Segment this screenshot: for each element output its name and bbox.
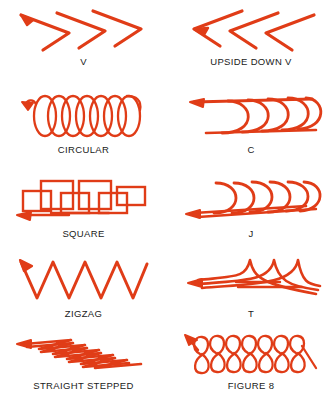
arrowhead-icon: [194, 28, 208, 35]
pattern-cell-circular: CIRCULAR: [0, 84, 167, 168]
pattern-label: C: [247, 145, 254, 155]
arrowhead-icon: [22, 102, 33, 110]
pattern-cell-straight-stepped: STRAIGHT STEPPED: [0, 326, 167, 406]
pattern-label: SQUARE: [62, 229, 104, 239]
pattern-cell-j: J: [167, 168, 335, 248]
arrowhead-icon: [20, 260, 32, 271]
pattern-cell-upside-down-v: UPSIDE DOWN V: [167, 0, 335, 84]
pattern-grid: V UPSIDE DOWN V: [0, 0, 335, 406]
pattern-label: ZIGZAG: [65, 309, 102, 319]
pattern-label: J: [248, 229, 253, 239]
pattern-label: STRAIGHT STEPPED: [33, 381, 133, 391]
arrowhead-icon: [188, 279, 202, 287]
arrowhead-icon: [190, 99, 204, 107]
pattern-cell-c: C: [167, 84, 335, 168]
arrowhead-icon: [21, 15, 33, 25]
arrowhead-icon: [17, 340, 31, 348]
sawtooth-icon: [9, 252, 159, 308]
figure-eight-coil-icon: [176, 330, 326, 380]
arc-repeat-icon: [176, 88, 326, 144]
pattern-label: CIRCULAR: [58, 145, 109, 155]
arrowhead-icon: [17, 212, 31, 220]
pattern-cell-t: T: [167, 248, 335, 326]
pattern-label: T: [248, 309, 254, 319]
arrowhead-icon: [186, 210, 200, 218]
pattern-cell-zigzag: ZIGZAG: [0, 248, 167, 326]
loop-coil-icon: [9, 88, 159, 144]
stroke-pattern-chart: V UPSIDE DOWN V: [0, 0, 335, 406]
chevron-left-repeat-icon: [176, 4, 326, 56]
pattern-cell-square: SQUARE: [0, 168, 167, 248]
hook-repeat-icon: [176, 172, 326, 228]
stepped-stroke-icon: [9, 330, 159, 380]
pattern-label: UPSIDE DOWN V: [210, 57, 292, 67]
chevron-right-repeat-icon: [9, 4, 159, 56]
spike-crossbar-icon: [176, 252, 326, 308]
pattern-label: V: [80, 57, 87, 67]
pattern-cell-v: V: [0, 0, 167, 84]
pattern-label: FIGURE 8: [228, 381, 275, 391]
rectangle-chain-icon: [9, 172, 159, 228]
pattern-cell-figure-8: FIGURE 8: [167, 326, 335, 406]
